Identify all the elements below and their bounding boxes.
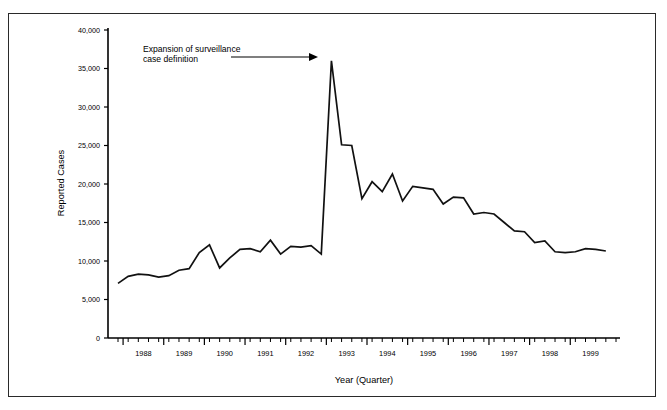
y-tick-label: 20,000 xyxy=(78,180,100,189)
x-tick-label: 1990 xyxy=(216,349,232,358)
y-tick-label: 0 xyxy=(96,334,100,343)
y-tick-label: 5,000 xyxy=(82,295,100,304)
x-axis-tick-labels: 1988198919901991199219931994199519961997… xyxy=(135,349,599,358)
x-tick-label: 1998 xyxy=(542,349,558,358)
x-tick-label: 1988 xyxy=(135,349,151,358)
x-axis-title: Year (Quarter) xyxy=(335,375,393,385)
x-axis: 1988198919901991199219931994199519961997… xyxy=(108,338,620,358)
x-tick-label: 1991 xyxy=(257,349,273,358)
chart-canvas: 05,00010,00015,00020,00025,00030,00035,0… xyxy=(0,0,667,410)
annotation-callout: Expansion of surveillance case definitio… xyxy=(143,44,318,64)
x-axis-major-ticks xyxy=(123,338,570,345)
x-tick-label: 1993 xyxy=(338,349,354,358)
x-tick-label: 1989 xyxy=(176,349,192,358)
y-axis-tick-labels: 05,00010,00015,00020,00025,00030,00035,0… xyxy=(78,26,100,343)
annotation-arrow-head xyxy=(309,53,318,61)
x-tick-label: 1992 xyxy=(298,349,314,358)
y-tick-label: 15,000 xyxy=(78,218,100,227)
y-tick-label: 25,000 xyxy=(78,141,100,150)
data-series-line xyxy=(118,61,606,284)
x-tick-label: 1994 xyxy=(379,349,395,358)
y-axis: 05,00010,00015,00020,00025,00030,00035,0… xyxy=(78,26,108,343)
y-tick-label: 35,000 xyxy=(78,64,100,73)
x-tick-label: 1995 xyxy=(420,349,436,358)
x-tick-label: 1997 xyxy=(501,349,517,358)
x-tick-label: 1996 xyxy=(460,349,476,358)
figure-root: 05,00010,00015,00020,00025,00030,00035,0… xyxy=(0,0,667,410)
y-axis-title: Reported Cases xyxy=(56,149,66,216)
y-tick-label: 40,000 xyxy=(78,26,100,35)
annotation-text-line2: case definition xyxy=(143,54,198,64)
y-tick-label: 10,000 xyxy=(78,257,100,266)
y-tick-label: 30,000 xyxy=(78,103,100,112)
annotation-text-line1: Expansion of surveillance xyxy=(143,44,241,54)
x-tick-label: 1999 xyxy=(582,349,598,358)
